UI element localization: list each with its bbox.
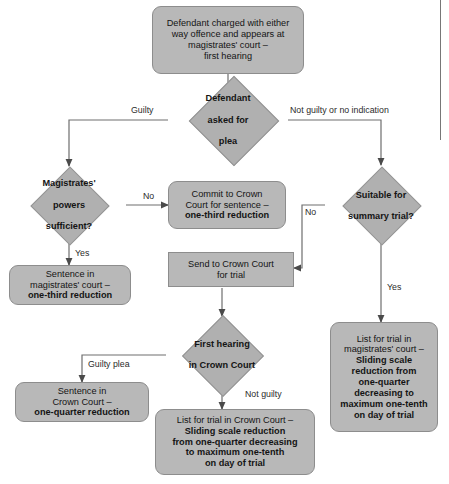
node-sentence-in-crown-court-label: Sentence in Crown Court – one-quarter re… — [16, 386, 148, 419]
edge-label-summary-yes: Yes — [387, 283, 401, 292]
node-send-to-crown-court-label: Send to Crown Court for trial — [169, 259, 293, 281]
edge-label-not-guilty: Not guilty — [245, 390, 282, 399]
node-defendant-charged-label: Defendant charged with either way offenc… — [153, 18, 303, 61]
node-list-for-trial-magistrates: List for trial in magistrates' court – S… — [330, 322, 438, 432]
edge-label-guilty: Guilty — [131, 106, 154, 115]
node-list-for-trial-crown-court: List for trial in Crown Court – Sliding … — [155, 409, 315, 475]
edge-label-summary-no: No — [305, 208, 316, 217]
node-sentence-in-crown-court: Sentence in Crown Court – one-quarter re… — [15, 382, 149, 422]
edge-label-guilty-plea: Guilty plea — [88, 360, 130, 369]
node-commit-to-crown-court-label: Commit to Crown Court for sentence – one… — [169, 189, 285, 222]
node-sentence-in-magistrates-court-label: Sentence in magistrates' court – one-thi… — [10, 269, 130, 302]
flowchart-page: Defendant charged with either way offenc… — [0, 0, 449, 484]
edge-plea-to-powers — [69, 120, 168, 166]
node-commit-to-crown-court: Commit to Crown Court for sentence – one… — [168, 181, 286, 229]
node-list-for-trial-crown-court-label: List for trial in Crown Court – Sliding … — [156, 415, 314, 469]
edge-plea-to-summary — [288, 120, 381, 165]
edge-label-powers-no: No — [143, 192, 154, 201]
edge-label-powers-yes: Yes — [75, 249, 89, 258]
edge-label-not-guilty-or-no-indication: Not guilty or no indication — [290, 106, 389, 115]
page-edge-line — [440, 0, 441, 140]
node-defendant-charged: Defendant charged with either way offenc… — [152, 6, 304, 74]
node-sentence-in-magistrates-court: Sentence in magistrates' court – one-thi… — [9, 265, 131, 305]
node-list-for-trial-magistrates-label: List for trial in magistrates' court – S… — [331, 334, 437, 421]
node-send-to-crown-court: Send to Crown Court for trial — [168, 252, 294, 287]
